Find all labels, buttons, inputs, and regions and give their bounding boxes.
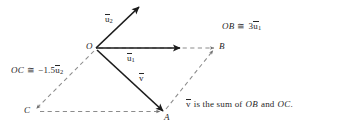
congruent-icon: ≅ (237, 21, 245, 31)
annotation-OC-relation: OC≅−1.5u2 (11, 66, 63, 76)
annotation-OB-relation: OB≅3u1 (222, 22, 261, 32)
sum-caption-conjunction: and (261, 99, 275, 109)
vector-u2-arrow (96, 7, 139, 48)
point-label-O: O (86, 42, 93, 51)
point-label-C: C (24, 106, 30, 115)
vector-label-u2: u2 (105, 15, 113, 25)
OC-lhs: OC (11, 65, 24, 75)
congruent-icon: ≅ (27, 65, 35, 75)
vector-label-v: v (139, 74, 144, 83)
sum-caption-term1: OB (246, 99, 258, 109)
point-label-A: A (164, 113, 170, 122)
OB-vector-subscript: 1 (258, 24, 261, 31)
OC-coefficient: −1.5 (38, 65, 55, 75)
sum-caption-period: . (290, 99, 292, 109)
vector-label-u1: u1 (127, 54, 135, 64)
point-label-B: B (219, 42, 225, 51)
annotation-sum-caption: vis the sum ofOBandOC. (186, 100, 293, 109)
sum-caption-text: is the sum of (194, 99, 243, 109)
OB-lhs: OB (222, 21, 234, 31)
OC-vector-subscript: 2 (60, 68, 63, 75)
sum-caption-term2: OC (278, 99, 291, 109)
dashed-line-O-to-C (37, 51, 95, 109)
